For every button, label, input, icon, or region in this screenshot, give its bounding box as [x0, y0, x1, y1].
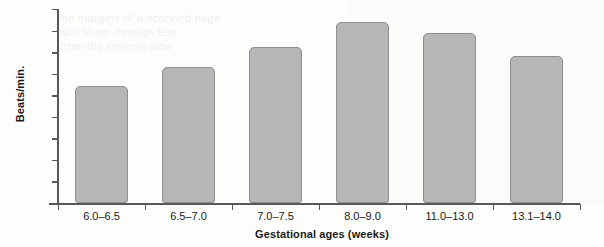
y-axis-label: Beats/min. [14, 44, 26, 144]
bar [423, 33, 476, 203]
x-axis-label-text: Gestational ages (weeks) [215, 228, 389, 240]
x-axis-tick-label: 6.0–6.5 [58, 210, 145, 222]
y-axis-tick-mark [52, 160, 58, 161]
x-axis-tick-label: 7.0–7.5 [232, 210, 319, 222]
bar [336, 22, 389, 203]
x-axis-tick-mark [232, 204, 233, 210]
y-axis-tick-mark [52, 9, 58, 10]
y-axis-tick-mark [52, 52, 58, 53]
y-axis-tick-mark [52, 31, 58, 32]
y-axis-tick-mark [52, 95, 58, 96]
x-axis-tick-mark [406, 204, 407, 210]
y-axis-tick-mark [52, 138, 58, 139]
x-axis-tick-label: 11.0–13.0 [406, 210, 493, 222]
y-axis-tick-mark [52, 181, 58, 182]
x-axis-tick-mark [580, 204, 581, 210]
chart-figure: the margins of a scanned page faint show… [0, 0, 604, 247]
bleed-through-text: faint show-through text [56, 26, 176, 38]
bleed-through-text: from the reverse side [60, 40, 172, 52]
x-axis-line [49, 203, 580, 205]
bar [510, 56, 563, 203]
y-axis-tick-mark [52, 117, 58, 118]
x-axis-tick-mark [319, 204, 320, 210]
bar [249, 47, 302, 203]
x-axis-tick-label: 13.1–14.0 [493, 210, 580, 222]
x-axis-tick-mark [58, 204, 59, 210]
x-axis-label: Gestational ages (weeks) [0, 228, 604, 240]
x-axis-tick-mark [493, 204, 494, 210]
y-axis-line [57, 9, 59, 204]
y-axis-tick-mark [52, 74, 58, 75]
x-axis-tick-label: 6.5–7.0 [145, 210, 232, 222]
bar [162, 67, 215, 203]
x-axis-tick-mark [145, 204, 146, 210]
x-axis-tick-label: 8.0–9.0 [319, 210, 406, 222]
bar [75, 86, 128, 203]
bleed-through-text: the margins of a scanned page [58, 12, 221, 24]
